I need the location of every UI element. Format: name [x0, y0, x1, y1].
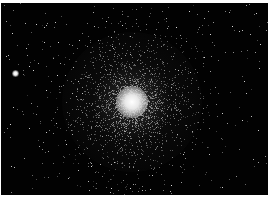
- foreground-star: [12, 70, 19, 77]
- star-cluster-canvas: [1, 3, 268, 195]
- star-field-image: [1, 3, 268, 195]
